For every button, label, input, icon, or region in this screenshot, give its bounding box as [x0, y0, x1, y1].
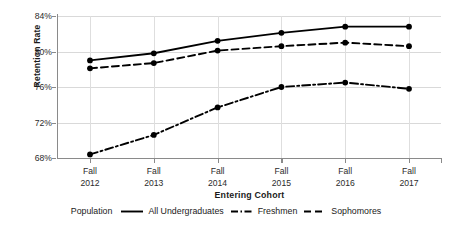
- y-axis-tick-mark: [52, 16, 56, 17]
- data-point-marker: [279, 30, 285, 36]
- y-axis-tick-label: 72%: [18, 118, 52, 128]
- data-point-marker: [406, 43, 412, 49]
- data-point-marker: [151, 132, 157, 138]
- data-point-marker: [87, 152, 93, 158]
- series-layer: [58, 16, 441, 158]
- y-axis-tick-label: 84%: [18, 11, 52, 21]
- data-point-marker: [87, 57, 93, 63]
- legend-title: Population: [71, 206, 113, 216]
- data-point-marker: [342, 24, 348, 30]
- y-axis-tick-label: 76%: [18, 82, 52, 92]
- data-point-marker: [215, 38, 221, 44]
- x-axis-tick-label: Fall2014: [183, 166, 253, 189]
- series-line-all-undergraduates: [90, 27, 409, 61]
- x-axis-tick-mark: [345, 159, 346, 163]
- data-point-marker: [342, 40, 348, 46]
- data-point-marker: [406, 24, 412, 30]
- x-axis-tick-label: Fall2016: [310, 166, 380, 189]
- x-axis-tick-label: Fall2015: [246, 166, 316, 189]
- legend-swatch-solid-icon: [121, 207, 143, 216]
- data-point-marker: [87, 65, 93, 71]
- legend: Population All UndergraduatesFreshmenSop…: [0, 206, 452, 216]
- y-axis-tick-mark: [52, 52, 56, 53]
- legend-label: All Undergraduates: [148, 206, 223, 216]
- data-point-marker: [279, 43, 285, 49]
- x-axis-tick-label: Fall2017: [374, 166, 444, 189]
- x-axis-tick-mark: [441, 159, 442, 163]
- data-point-marker: [215, 105, 221, 111]
- legend-item-freshmen[interactable]: Freshmen: [231, 206, 298, 216]
- x-axis-tick-mark: [154, 159, 155, 163]
- x-axis-tick-label: Fall2012: [55, 166, 125, 189]
- x-axis-tick-mark: [281, 159, 282, 163]
- y-axis-tick-label: 80%: [18, 47, 52, 57]
- data-point-marker: [151, 50, 157, 56]
- y-axis-tick-mark: [52, 87, 56, 88]
- data-point-marker: [215, 48, 221, 54]
- x-axis-tick-mark: [409, 159, 410, 163]
- x-axis-tick-mark: [218, 159, 219, 163]
- legend-label: Freshmen: [258, 206, 298, 216]
- data-point-marker: [342, 80, 348, 86]
- data-point-marker: [279, 84, 285, 90]
- retention-rate-chart: Retention Rate 68%72%76%80%84% Fall2012F…: [0, 0, 452, 227]
- y-axis-tick-mark: [52, 158, 56, 159]
- x-axis-line: [57, 158, 442, 159]
- data-point-marker: [406, 86, 412, 92]
- legend-item-all-undergraduates[interactable]: All Undergraduates: [121, 206, 223, 216]
- y-axis-tick-label: 68%: [18, 153, 52, 163]
- data-point-marker: [151, 60, 157, 66]
- legend-label: Sophomores: [331, 206, 381, 216]
- y-axis-tick-labels: 68%72%76%80%84%: [12, 16, 52, 158]
- legend-swatch-dashdot-icon: [231, 207, 253, 216]
- series-line-freshmen: [90, 83, 409, 155]
- legend-swatch-dashed-icon: [304, 207, 326, 216]
- x-axis-tick-mark: [90, 159, 91, 163]
- x-axis-title: Entering Cohort: [58, 190, 441, 200]
- y-axis-tick-mark: [52, 123, 56, 124]
- legend-item-sophomores[interactable]: Sophomores: [304, 206, 381, 216]
- x-axis-tick-label: Fall2013: [119, 166, 189, 189]
